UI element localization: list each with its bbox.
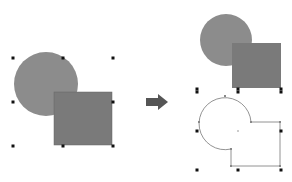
selection-handle[interactable]	[237, 169, 240, 172]
path-node[interactable]	[224, 95, 226, 97]
selection-handle[interactable]	[112, 101, 115, 104]
selection-handle[interactable]	[196, 130, 199, 133]
arrow-right-icon	[146, 94, 168, 110]
selection-handle[interactable]	[12, 57, 15, 60]
square-shape[interactable]	[232, 43, 281, 88]
after-shapes-group	[196, 14, 283, 91]
before-shapes-group	[12, 52, 115, 148]
selection-handle[interactable]	[12, 101, 15, 104]
path-node[interactable]	[230, 165, 232, 167]
selection-handle[interactable]	[280, 169, 283, 172]
selection-handle[interactable]	[237, 88, 240, 91]
path-node[interactable]	[279, 165, 281, 167]
path-node[interactable]	[230, 148, 232, 150]
selection-handle[interactable]	[12, 145, 15, 148]
center-mark	[238, 130, 239, 132]
selection-handle[interactable]	[237, 91, 240, 94]
selection-handle[interactable]	[62, 145, 65, 148]
selection-handle[interactable]	[112, 57, 115, 60]
selection-handle[interactable]	[280, 91, 283, 94]
path-node[interactable]	[198, 121, 200, 123]
union-outline-group	[196, 91, 283, 172]
selection-handle[interactable]	[196, 169, 199, 172]
selection-handle[interactable]	[62, 57, 65, 60]
selection-handle[interactable]	[196, 88, 199, 91]
path-node[interactable]	[279, 121, 281, 123]
path-node[interactable]	[250, 121, 252, 123]
diagram-canvas	[0, 0, 292, 182]
selection-handle[interactable]	[112, 145, 115, 148]
union-outline-path[interactable]	[199, 98, 280, 166]
selection-handle[interactable]	[196, 91, 199, 94]
selection-handle[interactable]	[280, 130, 283, 133]
square-shape[interactable]	[54, 92, 112, 145]
selection-handle[interactable]	[280, 88, 283, 91]
